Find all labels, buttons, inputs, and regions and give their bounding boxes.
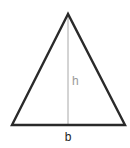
height-label: h: [72, 74, 79, 88]
triangle-diagram: h b: [0, 0, 130, 148]
base-label: b: [65, 130, 72, 144]
